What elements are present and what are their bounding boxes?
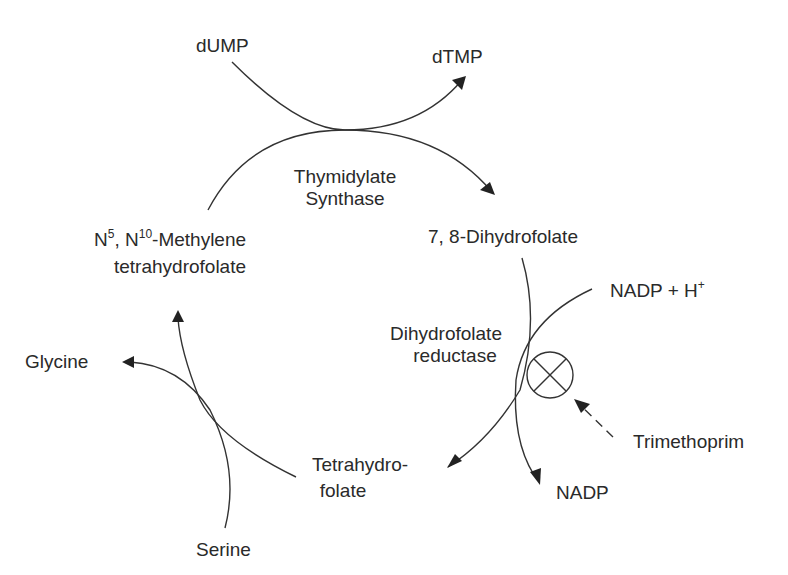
glycine-arrowhead <box>122 356 134 368</box>
dtmp-label: dTMP <box>432 46 483 67</box>
nadph-label: NADP + H+ <box>610 278 705 301</box>
serine-label: Serine <box>196 539 251 560</box>
tetrahydrofolate-to-methylene-thf-arrow <box>178 318 296 477</box>
trimethoprim-arrowhead <box>574 399 590 413</box>
glycine-label: Glycine <box>25 351 88 372</box>
trimethoprim-inhibition-arrow <box>580 405 613 437</box>
folate-pathway-diagram: dUMP dTMP Thymidylate Synthase 7, 8-Dihy… <box>0 0 788 575</box>
dhfr-label-line1: Dihydrofolate <box>390 323 502 344</box>
dump-to-dtmp-arrow <box>232 62 462 130</box>
nadp-label: NADP <box>556 482 609 503</box>
tetrahydrofolate-label-line1: Tetrahydro- <box>312 454 408 475</box>
thymidylate-synthase-label-line1: Thymidylate <box>294 166 396 187</box>
inhibition-circle-x-icon <box>527 352 573 398</box>
dump-label: dUMP <box>196 35 249 56</box>
methylene-thf-label-line2: tetrahydrofolate <box>114 256 246 277</box>
serine-to-glycine-arrow <box>130 362 230 528</box>
methylene-thf-label-line1: N5, N10-Methylene <box>94 227 246 250</box>
dhfr-label-line2: reductase <box>413 345 496 366</box>
dihydrofolate-arrowhead <box>480 182 495 195</box>
tetrahydrofolate-arrowhead <box>447 454 462 468</box>
dihydrofolate-label: 7, 8-Dihydrofolate <box>428 226 578 247</box>
trimethoprim-label: Trimethoprim <box>633 431 744 452</box>
nadph-to-nadp-arrow <box>515 289 592 475</box>
thymidylate-synthase-label-line2: Synthase <box>305 188 384 209</box>
methylene-thf-arrowhead <box>172 310 184 322</box>
tetrahydrofolate-label-line2: folate <box>320 480 366 501</box>
